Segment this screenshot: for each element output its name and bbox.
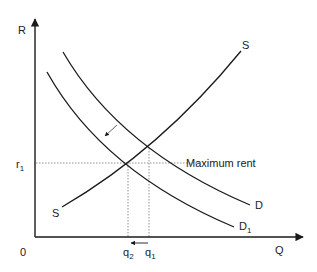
maximum-rent-label: Maximum rent (186, 157, 256, 169)
origin-label: 0 (20, 246, 26, 258)
q1-label: q1 (145, 246, 156, 261)
x-axis-label: Q (275, 244, 284, 256)
demand-curve-d (63, 52, 250, 205)
supply-demand-diagram: R Q 0 S S D D1 r1 Maximum rent q2 q1 (0, 0, 317, 272)
supply-label-top: S (242, 39, 249, 51)
demand-shift-arrow (105, 125, 117, 136)
y-axis-label: R (18, 24, 26, 36)
r1-label: r1 (16, 158, 25, 173)
demand-shifted-label: D1 (239, 220, 252, 235)
supply-label-bottom: S (52, 207, 59, 219)
demand-curve-d1 (47, 72, 234, 227)
demand-label: D (255, 199, 263, 211)
guide-lines (36, 148, 200, 237)
q2-label: q2 (123, 246, 134, 261)
